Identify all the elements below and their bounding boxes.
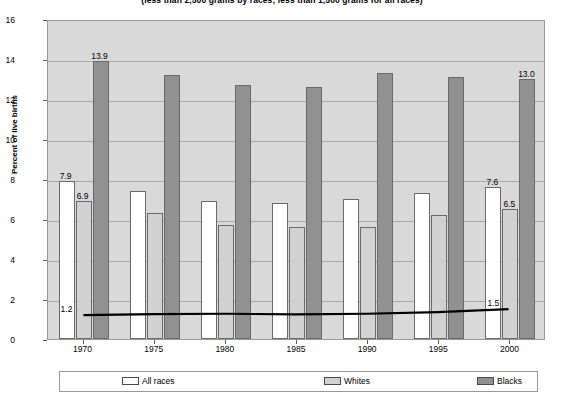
x-axis-tick-label: 1975 <box>144 344 163 354</box>
y-axis-tick-label: 2 <box>0 295 15 305</box>
legend-item: Whites <box>324 376 370 386</box>
y-axis-tick-label: 0 <box>0 335 15 345</box>
legend-item: Blacks <box>477 376 522 386</box>
bar-value-label: 6.9 <box>66 191 100 201</box>
x-axis-tick-label: 1980 <box>215 344 234 354</box>
y-axis-tick-label: 4 <box>0 255 15 265</box>
line-path <box>83 309 508 315</box>
legend-label: All races <box>142 376 175 386</box>
plot-area <box>47 20 545 340</box>
y-axis-tick-label: 12 <box>0 95 15 105</box>
bar-darkgray-swatch <box>477 377 494 385</box>
y-axis-tick-label: 14 <box>0 55 15 65</box>
line-series-very-low-birthweight <box>48 21 544 339</box>
legend-label: Whites <box>344 376 370 386</box>
y-axis-tick-label: 10 <box>0 135 15 145</box>
x-axis-tick-label: 1990 <box>358 344 377 354</box>
bar-value-label: 7.6 <box>475 177 509 187</box>
legend-item: All races <box>122 376 175 386</box>
chart-legend: All racesWhitesBlacksVery low birthweigh… <box>59 371 538 392</box>
x-axis-tick-label: 1985 <box>287 344 306 354</box>
x-axis-tick-label: 2000 <box>500 344 519 354</box>
bar-value-label: 7.9 <box>49 171 83 181</box>
legend-label: Blacks <box>497 376 522 386</box>
y-axis-tick-mark <box>43 340 47 341</box>
bar-white-swatch <box>122 377 139 385</box>
x-axis-tick-label: 1970 <box>73 344 92 354</box>
y-axis-tick-label: 8 <box>0 175 15 185</box>
chart-subtitle: (less than 2,500 grams by races; less th… <box>0 0 564 5</box>
chart-container: (less than 2,500 grams by races; less th… <box>0 0 564 404</box>
y-axis-tick-label: 16 <box>0 15 15 25</box>
line-value-label: 1.5 <box>487 298 499 308</box>
x-axis-tick-label: 1995 <box>429 344 448 354</box>
bar-value-label: 13.0 <box>509 69 543 79</box>
y-axis-tick-label: 6 <box>0 215 15 225</box>
bar-value-label: 13.9 <box>83 51 117 61</box>
x-axis-tick-labels: 1970197519801985199019952000 <box>47 344 545 360</box>
bar-lightgray-swatch <box>324 377 341 385</box>
bar-value-label: 6.5 <box>492 199 526 209</box>
line-value-label: 1.2 <box>61 304 73 314</box>
